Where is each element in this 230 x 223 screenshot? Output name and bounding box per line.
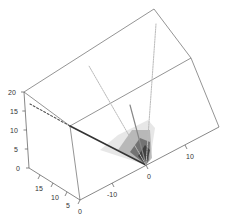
z-tick-15: 15 xyxy=(10,108,18,115)
scatter-3d-plot: 20 15 10 5 0 15 10 5 0 -10 0 10 xyxy=(0,0,230,223)
z-tick-10: 10 xyxy=(10,127,18,134)
y-axis-labels: 15 10 5 0 xyxy=(35,185,82,215)
z-tick-0: 0 xyxy=(16,165,20,172)
z-tick-5: 5 xyxy=(14,146,18,153)
x-tick-0: 0 xyxy=(147,173,151,180)
y-tick-5: 5 xyxy=(66,202,70,209)
ray-left-edge-tail xyxy=(30,104,70,126)
y-tick-10: 10 xyxy=(51,194,59,201)
z-axis-labels: 20 15 10 5 0 xyxy=(8,89,20,172)
z-tick-20: 20 xyxy=(8,89,16,96)
y-tick-0: 0 xyxy=(78,208,82,215)
z-axis xyxy=(21,92,29,168)
y-tick-15: 15 xyxy=(35,185,43,192)
x-tick-10: 10 xyxy=(186,153,194,160)
x-tick-neg10: -10 xyxy=(107,191,117,198)
bounding-box xyxy=(24,9,219,200)
